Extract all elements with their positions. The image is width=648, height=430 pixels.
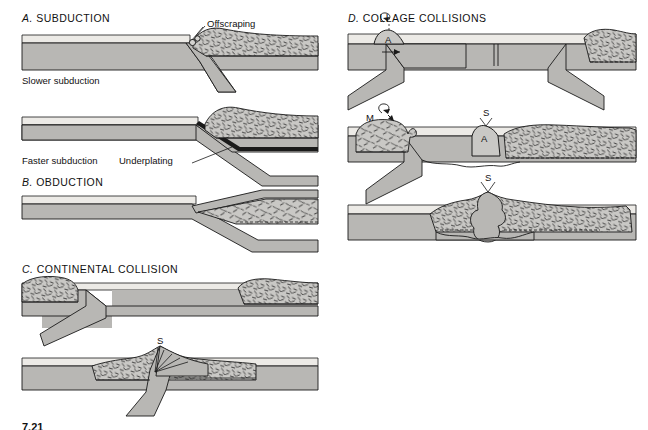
figure-container: A. SUBDUCTION Offscraping Slower subduct… bbox=[0, 0, 648, 430]
right-continent-c1 bbox=[238, 279, 318, 304]
right-continent-d1 bbox=[584, 29, 636, 62]
panel-b-letter: B. bbox=[22, 176, 33, 188]
faster-subduction-label: Faster subduction bbox=[22, 155, 98, 166]
microcontinent-mark-d2: M bbox=[366, 112, 374, 123]
panel-a-heading: A. SUBDUCTION bbox=[22, 12, 110, 24]
ocean-layer-left bbox=[22, 35, 190, 43]
panel-c-heading: C. CONTINENTAL COLLISION bbox=[22, 263, 178, 275]
suture-mark-d2: S bbox=[483, 107, 489, 118]
panel-d-heading: D. COLLAGE COLLISIONS bbox=[348, 12, 486, 24]
right-continent-d2 bbox=[504, 125, 636, 158]
panel-a-letter: A. bbox=[22, 12, 33, 24]
figure-caption: 7.21 bbox=[22, 421, 43, 430]
ocean-layer-a2 bbox=[22, 117, 198, 125]
suture-mark-d3: S bbox=[485, 172, 491, 183]
arc-mark-d2: A bbox=[481, 133, 487, 144]
panel-d-letter: D. bbox=[348, 12, 359, 24]
offscraping-blob-2 bbox=[195, 36, 200, 41]
offscraping-blob-1 bbox=[189, 39, 195, 45]
arc-mark-d1: A bbox=[385, 34, 391, 45]
suture-mark-c2: S bbox=[157, 335, 163, 346]
panel-b-heading: B. OBDUCTION bbox=[22, 176, 103, 188]
ocean-layer-b bbox=[22, 196, 196, 204]
slower-subduction-label: Slower subduction bbox=[22, 75, 100, 86]
left-continent-c1 bbox=[22, 276, 78, 302]
offscraping-label: Offscraping bbox=[207, 18, 255, 29]
underplating-label: Underplating bbox=[119, 155, 173, 166]
geology-diagram-svg bbox=[0, 0, 648, 430]
panel-c-title: CONTINENTAL COLLISION bbox=[37, 263, 178, 275]
panel-a-title: SUBDUCTION bbox=[36, 12, 110, 24]
panel-c-letter: C. bbox=[22, 263, 33, 275]
panel-b-title: OBDUCTION bbox=[36, 176, 103, 188]
oceanic-plate-body-a2 bbox=[22, 125, 196, 140]
panel-d-collage-collisions bbox=[348, 13, 636, 242]
panel-d-title: COLLAGE COLLISIONS bbox=[363, 12, 487, 24]
